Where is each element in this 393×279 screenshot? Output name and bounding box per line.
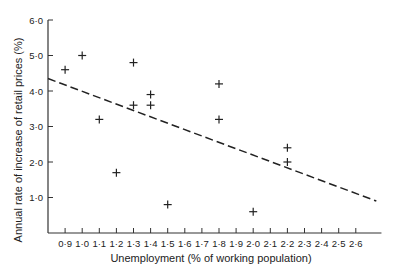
data-points — [61, 52, 291, 216]
x-tick-label: 2·0 — [246, 238, 260, 249]
plus-marker — [283, 144, 291, 152]
y-tick-label: 4·0 — [29, 86, 43, 97]
y-tick-label: 2·0 — [29, 157, 43, 168]
x-tick-label: 2·5 — [332, 238, 346, 249]
x-tick-label: 1·3 — [127, 238, 141, 249]
x-tick-label: 1·0 — [75, 238, 89, 249]
plus-marker — [147, 101, 155, 109]
x-tick-label: 1·5 — [161, 238, 175, 249]
y-tick-label: 6·0 — [29, 15, 43, 26]
plus-marker — [215, 115, 223, 123]
y-tick-label: 1·0 — [29, 192, 43, 203]
x-tick-label: 1·9 — [229, 238, 243, 249]
x-tick-label: 2·3 — [298, 238, 312, 249]
plus-marker — [283, 158, 291, 166]
plus-marker — [78, 52, 86, 60]
x-tick-label: 1·4 — [144, 238, 158, 249]
x-tick-label: 1·6 — [178, 238, 192, 249]
plus-marker — [95, 115, 103, 123]
x-tick-label: 2·4 — [315, 238, 329, 249]
y-axis-ticks: 1·02·03·04·05·06·0 — [29, 15, 53, 204]
axes — [48, 20, 381, 233]
x-axis-ticks: 0·91·01·11·21·31·41·51·61·71·81·92·02·12… — [58, 228, 362, 249]
plus-marker — [112, 169, 120, 177]
y-tick-label: 3·0 — [29, 121, 43, 132]
x-tick-label: 1·8 — [212, 238, 226, 249]
x-tick-label: 2·6 — [349, 238, 363, 249]
x-tick-label: 1·7 — [195, 238, 209, 249]
x-axis-label: Unemployment (% of working population) — [110, 252, 311, 264]
x-tick-label: 1·2 — [110, 238, 124, 249]
x-tick-label: 2·1 — [263, 238, 277, 249]
plus-marker — [147, 91, 155, 99]
y-tick-label: 5·0 — [29, 50, 43, 61]
x-tick-label: 1·1 — [92, 238, 106, 249]
plus-marker — [61, 66, 69, 74]
plus-marker — [130, 101, 138, 109]
plus-marker — [130, 59, 138, 67]
plus-marker — [215, 80, 223, 88]
plus-marker — [249, 208, 257, 216]
regression-line — [48, 79, 376, 201]
scatter-chart: 0·91·01·11·21·31·41·51·61·71·81·92·02·12… — [0, 0, 393, 279]
x-tick-label: 0·9 — [58, 238, 72, 249]
x-tick-label: 2·2 — [281, 238, 295, 249]
y-axis-label: Annual rate of increase of retail prices… — [12, 38, 24, 243]
plus-marker — [164, 201, 172, 209]
